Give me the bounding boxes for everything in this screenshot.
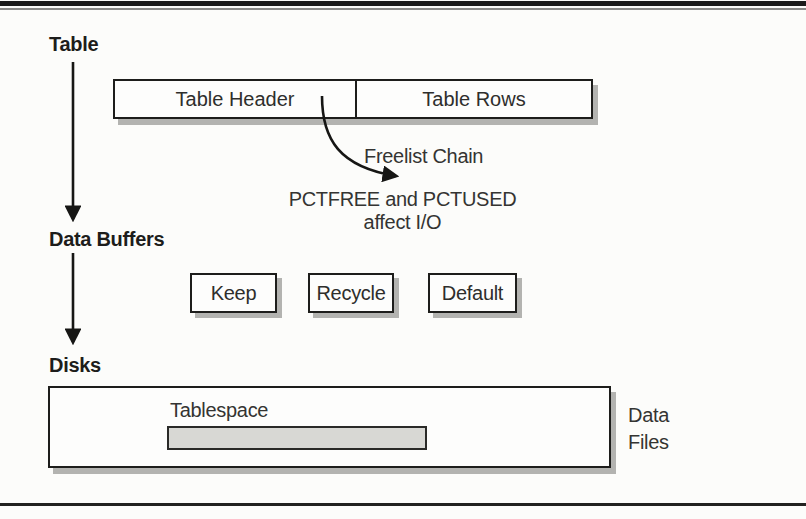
top-rule-thin [0, 8, 806, 10]
table-rows-cell: Table Rows [355, 81, 591, 117]
buffer-pool-keep: Keep [190, 273, 277, 313]
table-block-box: Table Header Table Rows [113, 79, 593, 119]
diagram-figure: Table Data Buffers Disks Table Header Ta… [0, 0, 806, 519]
data-files-line2: Files [628, 431, 669, 453]
data-files-line1: Data [628, 404, 669, 426]
disks-stage-label: Disks [49, 354, 101, 377]
pctfree-pctused-note: PCTFREE and PCTUSED affect I/O [280, 188, 525, 234]
data-buffers-stage-label: Data Buffers [49, 228, 164, 251]
top-rule-thick [0, 1, 806, 6]
table-header-cell: Table Header [115, 81, 355, 117]
table-stage-label: Table [49, 33, 98, 56]
buffer-pool-recycle: Recycle [308, 273, 394, 313]
tablespace-segment-bar [167, 426, 427, 450]
pct-note-line2: affect I/O [364, 211, 442, 233]
data-files-label: Data Files [628, 402, 669, 456]
bottom-rule [0, 503, 806, 506]
pct-note-line1: PCTFREE and PCTUSED [289, 188, 517, 210]
buffer-pool-default: Default [428, 273, 517, 313]
freelist-chain-label: Freelist Chain [364, 145, 483, 168]
tablespace-label: Tablespace [170, 399, 268, 422]
